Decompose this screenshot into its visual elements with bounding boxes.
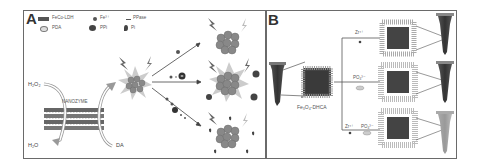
label-zr-top: Zr⁴⁺ xyxy=(355,30,364,35)
panel-b-diagram xyxy=(0,0,478,165)
label-po4-mid: PO₄³⁻ xyxy=(353,75,366,80)
label-zr-bottom: Zr⁴⁺ xyxy=(345,124,354,129)
label-core: Fe₃O₄-DHCA xyxy=(297,104,327,110)
core-particle xyxy=(303,68,331,96)
label-po4-bottom: PO₄³⁻ xyxy=(361,124,374,129)
